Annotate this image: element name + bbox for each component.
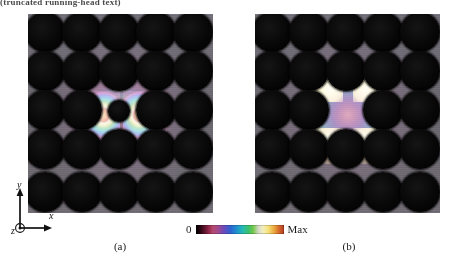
colorbar-legend: 0 Max: [186, 221, 308, 238]
x-axis-arrowhead: [44, 225, 52, 232]
axis-triad: y x z: [6, 180, 58, 238]
figure-panel-b: [255, 14, 440, 213]
x-axis-label: x: [49, 210, 53, 221]
z-axis-dot: [19, 227, 22, 230]
panel-b-caption: (b): [329, 240, 369, 252]
colorbar-gradient-bar: [196, 225, 284, 234]
panel-a-caption: (a): [100, 240, 140, 252]
page-header-text: (truncated running-head text): [0, 0, 160, 7]
colorbar-min-label: 0: [186, 224, 192, 235]
colorbar-max-label: Max: [288, 224, 308, 235]
y-axis-label: y: [17, 179, 21, 190]
panel-a-defect-rod: [108, 100, 130, 122]
z-axis-label: z: [11, 225, 15, 236]
